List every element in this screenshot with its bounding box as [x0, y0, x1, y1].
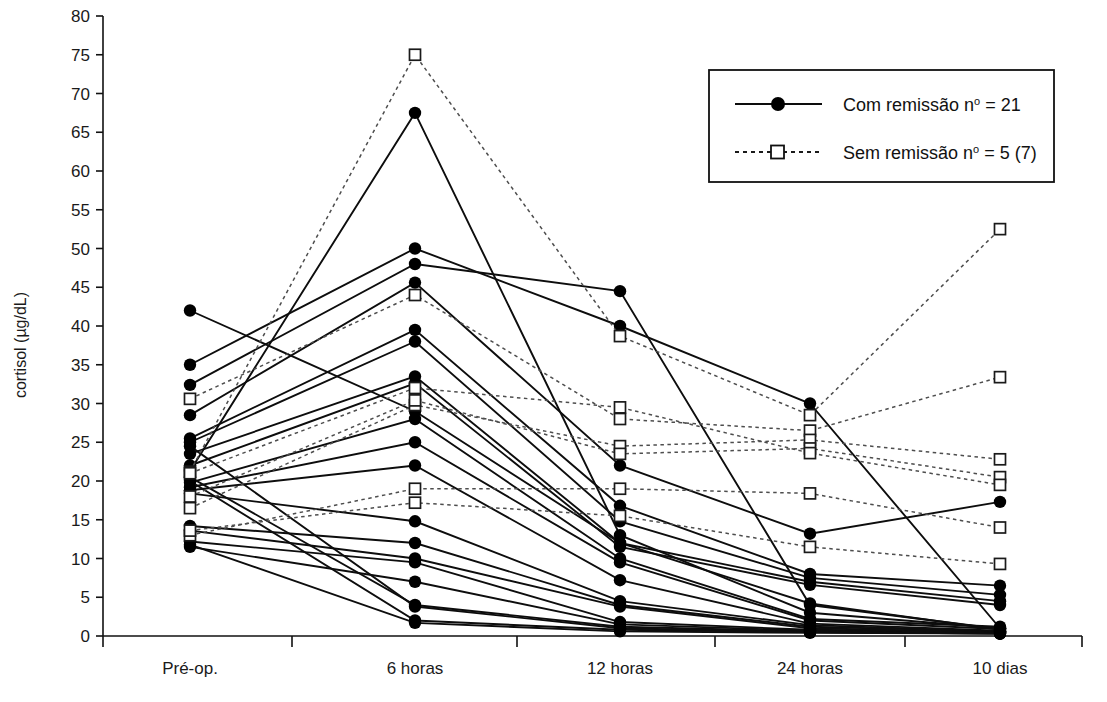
data-point-filled-circle — [409, 556, 421, 568]
y-axis-tick-label: 65 — [71, 123, 90, 142]
y-axis-tick-label: 75 — [71, 46, 90, 65]
data-point-filled-circle — [409, 436, 421, 448]
data-point-filled-circle — [409, 617, 421, 629]
data-point-filled-circle — [614, 574, 626, 586]
data-point-open-square — [410, 395, 421, 406]
y-axis-title: cortisol (µg/dL) — [12, 292, 29, 398]
data-point-filled-circle — [994, 627, 1006, 639]
data-point-open-square — [410, 49, 421, 60]
data-point-filled-circle — [804, 397, 816, 409]
data-point-open-square — [410, 483, 421, 494]
cortisol-line-chart: 05101520253035404550556065707580 Pré-op.… — [0, 0, 1107, 702]
data-point-filled-circle — [409, 537, 421, 549]
data-point-filled-circle — [409, 413, 421, 425]
data-point-open-square — [615, 448, 626, 459]
data-point-filled-circle — [184, 409, 196, 421]
y-axis-tick-label: 20 — [71, 472, 90, 491]
data-point-filled-circle — [184, 440, 196, 452]
y-axis-tick-label: 25 — [71, 433, 90, 452]
data-point-open-square — [805, 541, 816, 552]
data-point-filled-circle — [804, 528, 816, 540]
data-point-filled-circle — [409, 276, 421, 288]
data-point-open-square — [995, 224, 1006, 235]
legend-label: Com remissão no = 21 — [843, 95, 1021, 115]
y-axis-tick-label: 60 — [71, 162, 90, 181]
data-point-filled-circle — [614, 600, 626, 612]
x-axis-category-label: 12 horas — [587, 659, 653, 678]
data-point-open-square — [410, 497, 421, 508]
data-point-open-square — [615, 483, 626, 494]
data-point-filled-circle — [184, 379, 196, 391]
legend-marker-filled-circle — [771, 97, 785, 111]
data-point-open-square — [805, 448, 816, 459]
data-point-filled-circle — [409, 324, 421, 336]
y-axis-tick-label: 80 — [71, 7, 90, 26]
data-point-open-square — [995, 372, 1006, 383]
y-axis-tick-label: 30 — [71, 395, 90, 414]
y-axis-tick-label: 35 — [71, 356, 90, 375]
x-axis-category-label: 24 horas — [777, 659, 843, 678]
chart-figure: 05101520253035404550556065707580 Pré-op.… — [0, 0, 1107, 702]
data-point-filled-circle — [409, 335, 421, 347]
data-point-filled-circle — [614, 529, 626, 541]
data-point-open-square — [995, 522, 1006, 533]
data-point-open-square — [185, 503, 196, 514]
data-point-filled-circle — [804, 579, 816, 591]
chart-legend: Com remissão no = 21Sem remissão no = 5 … — [709, 70, 1054, 182]
data-point-open-square — [185, 525, 196, 536]
data-point-filled-circle — [614, 556, 626, 568]
x-axis-category-label: Pré-op. — [162, 659, 218, 678]
data-point-open-square — [615, 510, 626, 521]
y-axis-tick-label: 40 — [71, 317, 90, 336]
data-point-open-square — [185, 491, 196, 502]
data-point-filled-circle — [184, 359, 196, 371]
data-point-open-square — [410, 383, 421, 394]
data-point-open-square — [805, 488, 816, 499]
data-point-open-square — [185, 468, 196, 479]
data-point-filled-circle — [409, 107, 421, 119]
data-point-open-square — [805, 410, 816, 421]
data-point-filled-circle — [409, 258, 421, 270]
y-axis-tick-label: 0 — [81, 627, 90, 646]
data-point-open-square — [185, 393, 196, 404]
data-point-filled-circle — [184, 304, 196, 316]
y-axis-tick-label: 50 — [71, 240, 90, 259]
legend-label: Sem remissão no = 5 (7) — [843, 143, 1037, 163]
data-point-open-square — [615, 414, 626, 425]
data-point-filled-circle — [409, 242, 421, 254]
data-point-open-square — [995, 479, 1006, 490]
legend-box — [709, 70, 1054, 182]
y-axis-tick-label: 45 — [71, 278, 90, 297]
y-axis-tick-label: 15 — [71, 511, 90, 530]
data-point-open-square — [995, 454, 1006, 465]
data-point-open-square — [995, 558, 1006, 569]
data-point-filled-circle — [614, 459, 626, 471]
y-axis-tick-label: 70 — [71, 85, 90, 104]
data-point-filled-circle — [994, 599, 1006, 611]
y-axis-tick-label: 55 — [71, 201, 90, 220]
y-axis-tick-label: 10 — [71, 550, 90, 569]
data-point-filled-circle — [804, 627, 816, 639]
data-point-open-square — [615, 331, 626, 342]
data-point-filled-circle — [409, 576, 421, 588]
x-axis-category-label: 6 horas — [387, 659, 444, 678]
data-point-filled-circle — [409, 600, 421, 612]
data-point-filled-circle — [409, 515, 421, 527]
data-point-filled-circle — [614, 285, 626, 297]
legend-marker-open-square — [771, 146, 784, 159]
x-axis-category-label: 10 dias — [973, 659, 1028, 678]
data-point-filled-circle — [614, 541, 626, 553]
y-axis-tick-label: 5 — [81, 588, 90, 607]
data-point-open-square — [410, 290, 421, 301]
data-point-filled-circle — [994, 496, 1006, 508]
data-point-filled-circle — [614, 625, 626, 637]
data-point-filled-circle — [409, 459, 421, 471]
data-point-open-square — [615, 402, 626, 413]
